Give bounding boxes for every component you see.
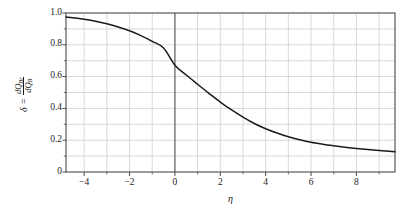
x-tick-label: −2 [116,177,144,187]
x-tick-label: 0 [161,177,189,187]
y-tick-label: 0.6 [36,70,62,80]
denominator-subscript: B [26,79,33,83]
figure-container: δ = dQBr dQB 00.20.40.60.81.0 −4−202468 … [0,0,413,218]
y-tick-label: 0.4 [36,102,62,112]
y-axis-label: δ = dQBr dQB [14,22,32,112]
curve-path [66,17,395,152]
y-tick-label: 0.2 [36,134,62,144]
y-tick-label: 0 [36,166,62,176]
x-axis-label: η [211,193,251,204]
axis-ticks [63,13,380,176]
y-axis-label-denominator: dQB [23,77,33,95]
y-axis-label-fraction: dQBr dQB [14,75,32,96]
x-tick-label: 8 [342,177,370,187]
grid-lines [66,13,395,172]
y-tick-label: 1.0 [36,7,62,17]
x-tick-label: 2 [206,177,234,187]
denominator-text: dQ [23,82,33,92]
x-tick-label: 6 [297,177,325,187]
x-tick-label: 4 [252,177,280,187]
y-tick-label: 0.8 [36,38,62,48]
y-axis-label-delta: δ = [18,98,29,112]
x-tick-label: −4 [70,177,98,187]
numerator-subscript: Br [17,77,24,83]
data-curve [66,17,395,152]
y-axis-label-numerator: dQBr [14,75,23,96]
numerator-text: dQ [13,84,23,94]
